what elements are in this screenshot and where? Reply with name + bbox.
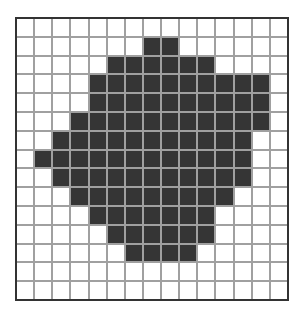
filled-cell [108, 207, 124, 224]
empty-cell [271, 132, 287, 149]
filled-cell [216, 132, 232, 149]
empty-cell [253, 169, 269, 186]
filled-cell [144, 113, 160, 130]
filled-cell [162, 245, 178, 262]
filled-cell [198, 188, 214, 205]
empty-cell [253, 207, 269, 224]
empty-cell [198, 282, 214, 299]
empty-cell [198, 245, 214, 262]
empty-cell [35, 226, 51, 243]
filled-cell [180, 226, 196, 243]
empty-cell [198, 263, 214, 280]
filled-cell [108, 188, 124, 205]
empty-cell [17, 226, 33, 243]
empty-cell [71, 38, 87, 55]
empty-cell [253, 132, 269, 149]
empty-cell [253, 188, 269, 205]
empty-cell [216, 263, 232, 280]
filled-cell [180, 113, 196, 130]
empty-cell [235, 57, 251, 74]
empty-cell [271, 94, 287, 111]
empty-cell [235, 19, 251, 36]
empty-cell [235, 226, 251, 243]
filled-cell [71, 132, 87, 149]
empty-cell [108, 263, 124, 280]
filled-cell [126, 245, 142, 262]
empty-cell [235, 188, 251, 205]
empty-cell [180, 263, 196, 280]
empty-cell [53, 38, 69, 55]
empty-cell [53, 188, 69, 205]
filled-cell [90, 94, 106, 111]
filled-cell [144, 188, 160, 205]
filled-cell [126, 226, 142, 243]
empty-cell [108, 19, 124, 36]
filled-cell [108, 75, 124, 92]
filled-cell [216, 94, 232, 111]
filled-cell [180, 188, 196, 205]
filled-cell [162, 57, 178, 74]
empty-cell [71, 226, 87, 243]
filled-cell [235, 132, 251, 149]
filled-cell [180, 94, 196, 111]
filled-cell [53, 132, 69, 149]
pixel-grid [15, 17, 289, 301]
filled-cell [198, 113, 214, 130]
filled-cell [216, 169, 232, 186]
empty-cell [271, 57, 287, 74]
filled-cell [126, 113, 142, 130]
empty-cell [53, 75, 69, 92]
filled-cell [180, 57, 196, 74]
filled-cell [198, 169, 214, 186]
filled-cell [235, 75, 251, 92]
filled-cell [144, 94, 160, 111]
filled-cell [90, 132, 106, 149]
filled-cell [144, 207, 160, 224]
empty-cell [216, 38, 232, 55]
empty-cell [144, 282, 160, 299]
filled-cell [108, 169, 124, 186]
filled-cell [90, 207, 106, 224]
filled-cell [108, 151, 124, 168]
filled-cell [126, 75, 142, 92]
filled-cell [71, 113, 87, 130]
filled-cell [35, 151, 51, 168]
empty-cell [35, 188, 51, 205]
empty-cell [271, 19, 287, 36]
filled-cell [144, 132, 160, 149]
empty-cell [53, 19, 69, 36]
filled-cell [180, 151, 196, 168]
empty-cell [235, 38, 251, 55]
filled-cell [90, 151, 106, 168]
filled-cell [144, 151, 160, 168]
empty-cell [126, 282, 142, 299]
empty-cell [253, 38, 269, 55]
empty-cell [144, 263, 160, 280]
empty-cell [235, 282, 251, 299]
empty-cell [35, 245, 51, 262]
filled-cell [162, 113, 178, 130]
empty-cell [17, 19, 33, 36]
filled-cell [235, 113, 251, 130]
empty-cell [35, 132, 51, 149]
filled-cell [216, 151, 232, 168]
filled-cell [126, 169, 142, 186]
empty-cell [271, 113, 287, 130]
empty-cell [144, 19, 160, 36]
filled-cell [198, 94, 214, 111]
empty-cell [17, 57, 33, 74]
empty-cell [271, 151, 287, 168]
empty-cell [90, 19, 106, 36]
filled-cell [162, 207, 178, 224]
empty-cell [53, 207, 69, 224]
empty-cell [271, 38, 287, 55]
empty-cell [17, 75, 33, 92]
filled-cell [162, 151, 178, 168]
filled-cell [235, 169, 251, 186]
empty-cell [108, 282, 124, 299]
filled-cell [53, 169, 69, 186]
empty-cell [35, 57, 51, 74]
empty-cell [198, 38, 214, 55]
empty-cell [216, 19, 232, 36]
empty-cell [53, 263, 69, 280]
